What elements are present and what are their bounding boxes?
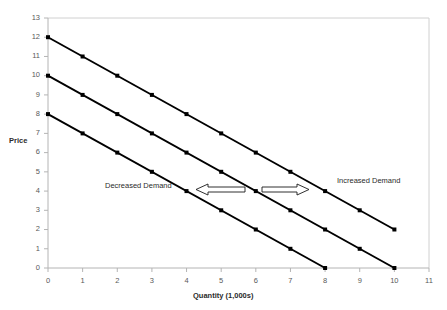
y-tick-label: 2 — [26, 225, 40, 233]
x-axis-title: Quantity (1,000s) — [193, 292, 253, 300]
x-tick-label: 4 — [177, 277, 197, 285]
x-tick-label: 6 — [246, 277, 266, 285]
y-axis-title: Price — [9, 137, 27, 145]
y-axis-ticks — [44, 18, 48, 268]
y-tick-label: 3 — [26, 206, 40, 214]
x-tick-label: 5 — [211, 277, 231, 285]
series-original-demand — [46, 74, 396, 270]
y-tick-label: 4 — [26, 187, 40, 195]
y-tick-label: 0 — [26, 264, 40, 272]
y-tick-label: 12 — [26, 33, 40, 41]
series-increased-demand — [46, 35, 396, 231]
y-tick-label: 6 — [26, 148, 40, 156]
y-tick-label: 8 — [26, 110, 40, 118]
x-tick-label: 3 — [142, 277, 162, 285]
y-tick-label: 1 — [26, 245, 40, 253]
x-tick-label: 8 — [315, 277, 335, 285]
decreased-demand-annotation: Decreased Demand — [105, 182, 172, 190]
x-tick-label: 1 — [73, 277, 93, 285]
y-tick-label: 5 — [26, 168, 40, 176]
x-tick-label: 10 — [384, 277, 404, 285]
demand-shift-chart: 13 12 11 10 9 8 7 6 5 4 3 2 1 0 0 1 2 3 … — [0, 0, 447, 310]
x-tick-label: 7 — [280, 277, 300, 285]
increased-demand-annotation: Increased Demand — [337, 177, 400, 185]
y-tick-label: 13 — [26, 14, 40, 22]
y-tick-label: 10 — [26, 71, 40, 79]
shift-right-arrow-icon — [262, 184, 309, 195]
shift-left-arrow-icon — [196, 184, 245, 195]
y-tick-label: 11 — [26, 52, 40, 60]
x-tick-label: 11 — [419, 277, 439, 285]
y-tick-label: 7 — [26, 129, 40, 137]
x-tick-label: 9 — [350, 277, 370, 285]
x-axis-ticks — [48, 268, 429, 272]
chart-canvas — [0, 0, 447, 310]
x-tick-label: 2 — [107, 277, 127, 285]
y-tick-label: 9 — [26, 91, 40, 99]
x-tick-label: 0 — [38, 277, 58, 285]
